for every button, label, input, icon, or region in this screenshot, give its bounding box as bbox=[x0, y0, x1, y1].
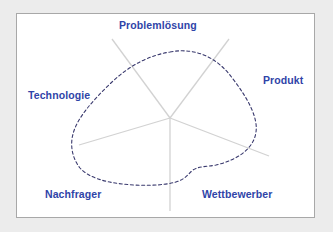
axis-label-nachfrager: Nachfrager bbox=[45, 188, 101, 200]
profile-curve bbox=[72, 51, 257, 186]
axis-label-problemloesung: Problemlösung bbox=[119, 19, 197, 31]
axis-line-technologie bbox=[79, 118, 170, 145]
axis-label-wettbewerber: Wettbewerber bbox=[202, 188, 272, 200]
diagram-root: Problemlösung Technologie Produkt Nachfr… bbox=[0, 0, 333, 232]
axis-line-problemloesung bbox=[112, 39, 170, 118]
axis-lines-group bbox=[79, 39, 269, 211]
axis-label-produkt: Produkt bbox=[263, 74, 303, 86]
axis-label-technologie: Technologie bbox=[28, 89, 90, 101]
axis-line-wettbewerber bbox=[170, 118, 269, 156]
